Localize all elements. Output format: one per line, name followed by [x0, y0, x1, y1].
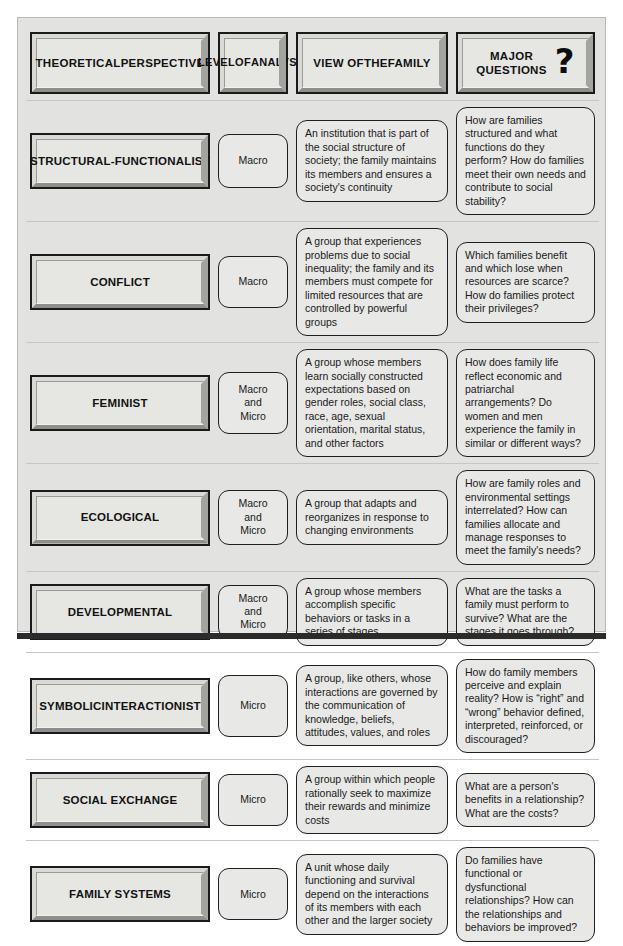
header-cell-view: VIEW OF THE FAMILY: [292, 26, 452, 100]
header-cell-perspective: THEORETICAL PERSPECTIVE: [26, 26, 214, 100]
view-text: A group that experiences problems due to…: [305, 235, 439, 329]
perspective-label-line1: SOCIAL EXCHANGE: [63, 793, 178, 807]
level-cell: Macro and Micro: [218, 585, 288, 639]
table-row: CONFLICT Macro A group that experiences …: [26, 222, 599, 343]
perspective-box: CONFLICT: [30, 254, 210, 310]
table-row: FEMINIST Macro and Micro A group whose m…: [26, 343, 599, 464]
level-value: Macro and Micro: [238, 497, 267, 537]
perspective-box: SYMBOLIC INTERACTIONIST: [30, 678, 210, 734]
perspective-label-line1: CONFLICT: [90, 275, 150, 289]
view-text: A unit whose daily functioning and survi…: [305, 861, 439, 928]
view-cell: A group that experiences problems due to…: [296, 228, 448, 336]
header-box-view-of-the-family: VIEW OF THE FAMILY: [296, 32, 448, 94]
perspective-label-line1: DEVELOPMENTAL: [68, 605, 173, 619]
questions-text: How are families structured and what fun…: [465, 114, 586, 208]
header-label-line3: FAMILY: [388, 56, 431, 70]
perspective-box: ECOLOGICAL: [30, 490, 210, 546]
level-cell: Micro: [218, 868, 288, 920]
questions-text: What are the tasks a family must perform…: [465, 585, 586, 639]
level-cell: Micro: [218, 675, 288, 737]
level-cell: Macro and Micro: [218, 490, 288, 544]
level-cell: Macro: [218, 256, 288, 308]
view-text: A group that adapts and reorganizes in r…: [305, 497, 439, 537]
view-cell: A group that adapts and reorganizes in r…: [296, 490, 448, 544]
header-label-major-questions: MAJOR QUESTIONS: [476, 49, 546, 78]
perspective-box: DEVELOPMENTAL: [30, 584, 210, 640]
level-cell: Micro: [218, 774, 288, 826]
level-value: Macro and Micro: [238, 383, 267, 423]
table-row: FAMILY SYSTEMS Micro A unit whose daily …: [26, 841, 599, 946]
view-cell: A unit whose daily functioning and survi…: [296, 854, 448, 935]
header-label-line2: THE: [364, 56, 388, 70]
perspective-box: FEMINIST: [30, 375, 210, 431]
questions-cell: What are a person's benefits in a relati…: [456, 773, 595, 827]
header-label-line1: VIEW OF: [313, 56, 364, 70]
questions-cell: How does family life reflect economic an…: [456, 349, 595, 457]
view-text: An institution that is part of the socia…: [305, 127, 439, 194]
perspective-label-line1: ECOLOGICAL: [81, 510, 160, 524]
table-row: SYMBOLIC INTERACTIONIST Micro A group, l…: [26, 653, 599, 761]
view-cell: A group whose members learn socially con…: [296, 349, 448, 457]
view-text: A group whose members learn socially con…: [305, 356, 439, 450]
questions-cell: How are family roles and environmental s…: [456, 470, 595, 565]
perspective-box: FAMILY SYSTEMS: [30, 866, 210, 922]
questions-cell: How are families structured and what fun…: [456, 107, 595, 215]
view-cell: An institution that is part of the socia…: [296, 120, 448, 201]
perspective-label-line1: STRUCTURAL-: [30, 154, 115, 168]
table-row: SOCIAL EXCHANGE Micro A group within whi…: [26, 760, 599, 841]
level-cell: Macro: [218, 134, 288, 188]
questions-cell: Do families have functional or dysfuncti…: [456, 847, 595, 942]
perspective-label-line1: FEMINIST: [92, 396, 147, 410]
view-text: A group within which people rationally s…: [305, 773, 439, 827]
questions-cell: What are the tasks a family must perform…: [456, 578, 595, 646]
level-value: Macro: [238, 154, 267, 167]
questions-cell: Which families benefit and which lose wh…: [456, 242, 595, 323]
view-text: A group, like others, whose interactions…: [305, 672, 439, 739]
questions-text: What are a person's benefits in a relati…: [465, 780, 586, 820]
perspective-label-line1: SYMBOLIC: [39, 699, 101, 713]
level-value: Micro: [240, 793, 266, 806]
view-cell: A group whose members accomplish specifi…: [296, 578, 448, 646]
question-mark-icon: ?: [555, 48, 575, 75]
questions-text: How do family members perceive and expla…: [465, 666, 586, 747]
level-value: Macro: [238, 275, 267, 288]
questions-text: How are family roles and environmental s…: [465, 477, 586, 558]
header-box-major-questions: MAJOR QUESTIONS ?: [456, 32, 595, 94]
theoretical-perspectives-table: THEORETICAL PERSPECTIVE LEVEL OF ANALYSI…: [17, 17, 606, 632]
table-header-row: THEORETICAL PERSPECTIVE LEVEL OF ANALYSI…: [26, 26, 599, 101]
header-box-level-of-analysis: LEVEL OF ANALYSIS: [218, 32, 288, 94]
header-label-line1: THEORETICAL: [36, 56, 121, 70]
view-cell: A group, like others, whose interactions…: [296, 665, 448, 746]
table-row: ECOLOGICAL Macro and Micro A group that …: [26, 464, 599, 572]
table-row: DEVELOPMENTAL Macro and Micro A group wh…: [26, 572, 599, 653]
view-cell: A group within which people rationally s…: [296, 766, 448, 834]
header-cell-level: LEVEL OF ANALYSIS: [214, 26, 292, 100]
perspective-box: SOCIAL EXCHANGE: [30, 772, 210, 828]
level-value: Micro: [240, 699, 266, 712]
perspective-label-line2: FUNCTIONALIST: [115, 154, 210, 168]
header-label-line1: MAJOR: [490, 50, 533, 62]
questions-text: Which families benefit and which lose wh…: [465, 249, 586, 316]
header-label-line2: QUESTIONS: [476, 64, 546, 76]
header-label-line1: LEVEL: [198, 56, 235, 70]
table-grid: THEORETICAL PERSPECTIVE LEVEL OF ANALYSI…: [26, 26, 599, 946]
header-box-theoretical-perspective: THEORETICAL PERSPECTIVE: [30, 32, 210, 94]
header-label-line2: PERSPECTIVE: [121, 56, 205, 70]
table-row: STRUCTURAL- FUNCTIONALIST Macro An insti…: [26, 101, 599, 222]
perspective-box: STRUCTURAL- FUNCTIONALIST: [30, 133, 210, 189]
questions-text: How does family life reflect economic an…: [465, 356, 586, 450]
level-value: Macro and Micro: [238, 592, 267, 632]
questions-text: Do families have functional or dysfuncti…: [465, 854, 586, 935]
perspective-label-line2: INTERACTIONIST: [102, 699, 201, 713]
level-value: Micro: [240, 888, 266, 901]
questions-cell: How do family members perceive and expla…: [456, 659, 595, 754]
view-text: A group whose members accomplish specifi…: [305, 585, 439, 639]
level-cell: Macro and Micro: [218, 372, 288, 434]
perspective-label-line1: FAMILY SYSTEMS: [69, 887, 171, 901]
header-label-line2: OF: [235, 56, 251, 70]
header-cell-questions: MAJOR QUESTIONS ?: [452, 26, 599, 100]
